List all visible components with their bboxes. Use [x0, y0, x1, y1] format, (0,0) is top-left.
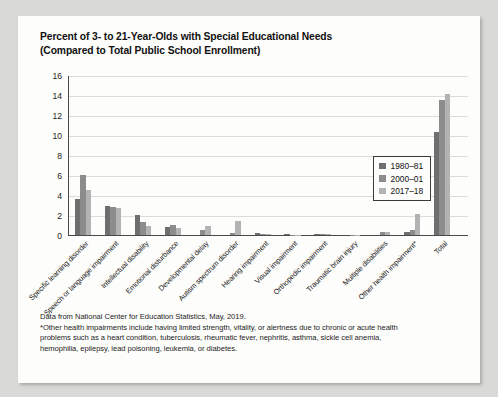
legend-item: 2017–18	[379, 186, 423, 196]
legend-label: 2017–18	[391, 186, 424, 196]
bar-group	[135, 76, 165, 235]
bar	[176, 228, 181, 235]
legend-label: 2000–01	[391, 174, 424, 184]
chart-title: Percent of 3- to 21-Year-Olds with Speci…	[40, 30, 460, 57]
bar-group	[344, 76, 374, 235]
bar	[325, 234, 330, 235]
y-tick-label: 0	[57, 231, 62, 241]
bar	[445, 94, 450, 235]
legend-item: 1980–81	[379, 161, 423, 171]
bar	[116, 208, 121, 235]
bar-group	[165, 76, 195, 235]
bar-group	[105, 76, 135, 235]
x-tick-label: Orthopedic impairment	[272, 239, 330, 297]
x-tick-label: Other health impairment*	[357, 239, 420, 302]
legend-item: 2000–01	[379, 174, 423, 184]
bar	[385, 232, 390, 235]
legend-swatch	[379, 175, 386, 182]
bar-group	[314, 76, 344, 235]
chart-title-line-2: (Compared to Total Public School Enrollm…	[40, 44, 460, 58]
chart-legend: 1980–812000–012017–18	[373, 156, 431, 201]
y-tick-label: 10	[52, 131, 62, 141]
bar	[205, 226, 210, 235]
y-tick-label: 12	[52, 111, 62, 121]
y-tick-label: 16	[52, 71, 62, 81]
footnote: Data from National Center for Education …	[40, 312, 465, 354]
chart-title-line-1: Percent of 3- to 21-Year-Olds with Speci…	[40, 30, 460, 44]
bar-group	[284, 76, 314, 235]
y-tick-label: 14	[52, 91, 62, 101]
y-tick-label: 4	[57, 191, 62, 201]
x-tick-label: Total	[432, 239, 449, 256]
y-tick-label: 8	[57, 151, 62, 161]
bar-group	[255, 76, 285, 235]
bar-group	[195, 76, 225, 235]
footnote-source: Data from National Center for Education …	[40, 312, 465, 323]
legend-swatch	[379, 188, 386, 195]
footnote-note-line-2: problems such as a heart condition, tube…	[40, 333, 465, 344]
bar-group	[225, 76, 255, 235]
y-axis: 0246810121416	[38, 76, 62, 236]
bar	[415, 214, 420, 235]
footnote-note-line-3: hemophilia, epilepsy, lead poisoning, le…	[40, 344, 465, 355]
chart-card: Percent of 3- to 21-Year-Olds with Speci…	[18, 16, 480, 383]
bar	[265, 234, 270, 236]
bar-group	[75, 76, 105, 235]
bar-group	[434, 76, 464, 235]
legend-swatch	[379, 163, 386, 170]
bar	[235, 221, 240, 235]
x-tick-label: Emotional disturbance	[124, 239, 181, 296]
bar	[146, 226, 151, 235]
y-tick-label: 2	[57, 211, 62, 221]
footnote-note-line-1: *Other health impairments include having…	[40, 323, 465, 334]
bar	[355, 235, 360, 236]
y-tick-label: 6	[57, 171, 62, 181]
plot-wrapper: 0246810121416 Specific learning disorder…	[18, 76, 480, 271]
chart-page: Percent of 3- to 21-Year-Olds with Speci…	[0, 0, 498, 397]
legend-label: 1980–81	[391, 161, 424, 171]
bar	[295, 235, 300, 236]
bar	[86, 190, 91, 235]
